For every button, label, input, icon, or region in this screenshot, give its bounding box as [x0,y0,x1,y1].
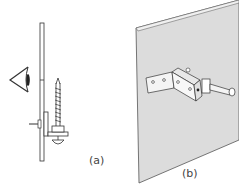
panel-b-label: (b) [182,167,198,180]
panel-edge [40,23,44,161]
figure-canvas [0,0,239,189]
eye-icon [10,67,30,92]
panel-a-label: (a) [89,154,104,167]
panel-a-diagram [10,23,68,161]
panel-b-diagram [136,0,239,183]
